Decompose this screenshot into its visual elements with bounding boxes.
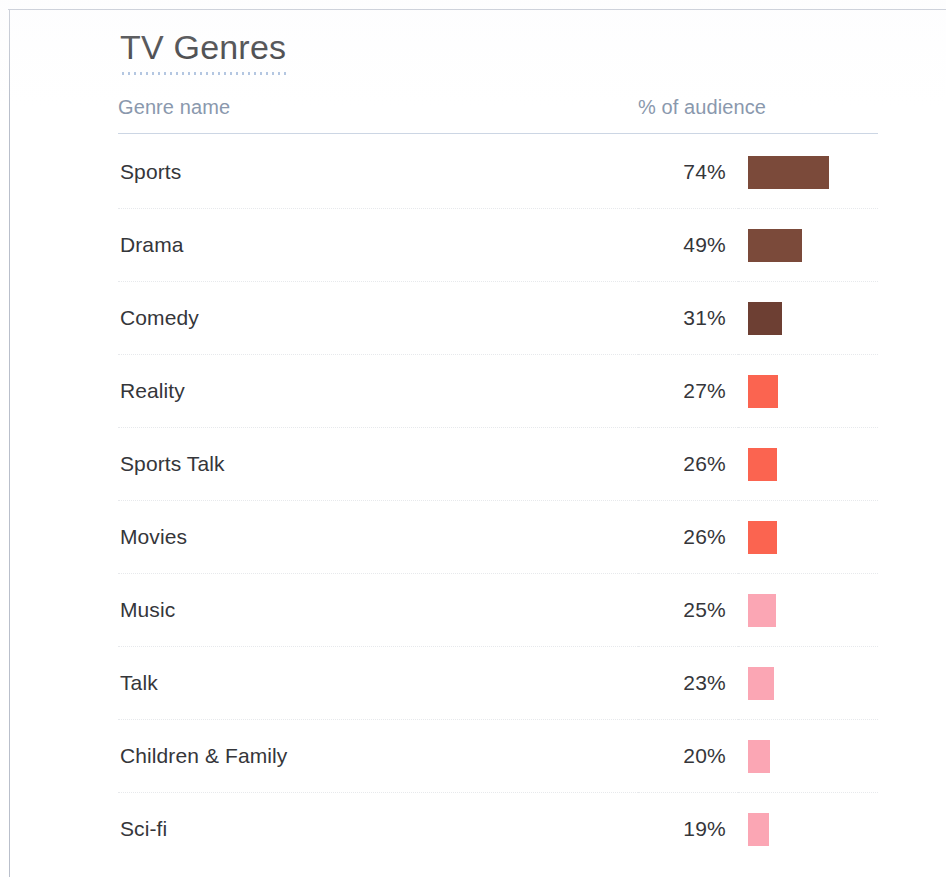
genre-percent-cell: 26% [638, 428, 738, 501]
genre-name-cell: Movies [118, 501, 638, 574]
page-title: TV Genres [118, 26, 878, 70]
genre-name-cell: Comedy [118, 282, 638, 355]
genre-bar-cell [738, 647, 878, 720]
genre-name-cell: Music [118, 574, 638, 647]
genre-bar-cell [738, 134, 878, 209]
genre-bar-cell [738, 793, 878, 866]
genre-percent-cell: 49% [638, 209, 738, 282]
genre-bar-cell [738, 720, 878, 793]
table-header-row: Genre name % of audience [118, 96, 878, 134]
column-header-pct-of-audience[interactable]: % of audience [638, 96, 738, 134]
genre-bar [748, 375, 778, 408]
genre-name-cell: Sci-fi [118, 793, 638, 866]
genre-percent-cell: 20% [638, 720, 738, 793]
genre-name-cell: Sports Talk [118, 428, 638, 501]
genre-bar-cell [738, 355, 878, 428]
table-row[interactable]: Sports74% [118, 134, 878, 209]
genre-percent-cell: 25% [638, 574, 738, 647]
genre-name-cell: Reality [118, 355, 638, 428]
table-header: Genre name % of audience [118, 96, 878, 134]
table-row[interactable]: Drama49% [118, 209, 878, 282]
genre-bar-cell [738, 501, 878, 574]
genre-bar [748, 813, 769, 846]
page-border-left [9, 9, 10, 877]
table-row[interactable]: Music25% [118, 574, 878, 647]
column-header-genre-name[interactable]: Genre name [118, 96, 638, 134]
page-border-top [8, 9, 946, 10]
genre-percent-cell: 74% [638, 134, 738, 209]
genre-percent-cell: 19% [638, 793, 738, 866]
genre-bar [748, 667, 774, 700]
genre-bar-cell [738, 574, 878, 647]
table-row[interactable]: Sports Talk26% [118, 428, 878, 501]
table-row[interactable]: Movies26% [118, 501, 878, 574]
genre-bar-cell [738, 209, 878, 282]
genre-bar [748, 740, 770, 773]
table-row[interactable]: Sci-fi19% [118, 793, 878, 866]
genre-bar-cell [738, 282, 878, 355]
genre-percent-cell: 26% [638, 501, 738, 574]
table-row[interactable]: Children & Family20% [118, 720, 878, 793]
genre-bar [748, 302, 782, 335]
title-dotted-underline [120, 72, 290, 75]
genre-bar [748, 156, 829, 189]
table-row[interactable]: Talk23% [118, 647, 878, 720]
genre-bar [748, 521, 777, 554]
scanned-page-frame: TV Genres Genre name % of audience Sport… [0, 0, 946, 877]
genre-bar [748, 594, 776, 627]
table-body: Sports74%Drama49%Comedy31%Reality27%Spor… [118, 134, 878, 866]
title-block: TV Genres [118, 26, 878, 70]
genre-bar [748, 229, 802, 262]
table-row[interactable]: Reality27% [118, 355, 878, 428]
tv-genres-table: Genre name % of audience Sports74%Drama4… [118, 96, 878, 865]
report-content: TV Genres Genre name % of audience Sport… [118, 26, 878, 865]
genre-name-cell: Children & Family [118, 720, 638, 793]
genre-percent-cell: 31% [638, 282, 738, 355]
genre-percent-cell: 27% [638, 355, 738, 428]
genre-bar-cell [738, 428, 878, 501]
genre-name-cell: Drama [118, 209, 638, 282]
genre-name-cell: Talk [118, 647, 638, 720]
genre-percent-cell: 23% [638, 647, 738, 720]
genre-bar [748, 448, 777, 481]
table-row[interactable]: Comedy31% [118, 282, 878, 355]
genre-name-cell: Sports [118, 134, 638, 209]
